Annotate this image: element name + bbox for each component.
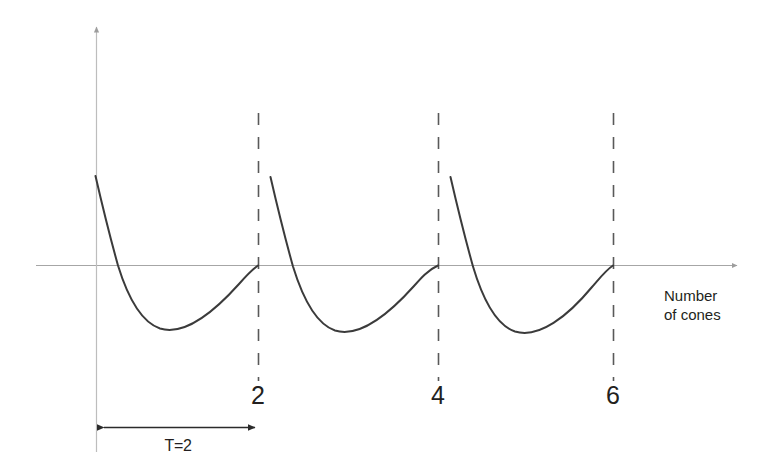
x-axis-label-line2: of cones [664,306,721,323]
data-curve-cycle-2 [271,177,439,332]
chart-plot-area [0,0,773,474]
x-tick-label-6: 6 [593,381,633,410]
data-curve-cycle-3 [451,177,614,333]
x-axis-label: Numberof cones [664,286,721,324]
period-annotation-label: T=2 [148,437,208,455]
data-curve-cycle-1 [96,176,259,330]
x-tick-label-4: 4 [418,381,458,410]
x-axis-label-line1: Number [664,287,717,304]
chart-figure: Numberof cones 2 4 6 T=2 [0,0,773,474]
x-tick-label-2: 2 [238,381,278,410]
